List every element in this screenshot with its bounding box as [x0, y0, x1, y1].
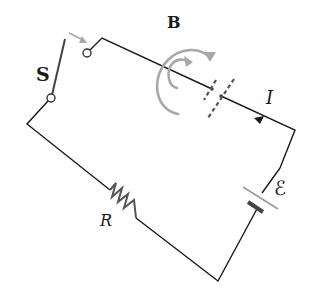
- field-arrowheads: [184, 52, 216, 67]
- switch-arrow-icon: [69, 33, 87, 43]
- switch-label: S: [36, 63, 50, 85]
- current-label: I: [266, 87, 273, 108]
- resistor-label: R: [100, 211, 112, 230]
- emf-label: ℰ: [274, 176, 286, 200]
- switch-terminal-open: [83, 49, 91, 57]
- circuit-diagram: S B I ℰ R: [0, 0, 318, 299]
- resistor: [110, 183, 136, 218]
- wire-ends: [210, 87, 223, 98]
- switch-terminal-pivot: [47, 94, 55, 102]
- wire: [27, 38, 295, 281]
- circuit-svg: [0, 0, 318, 299]
- current-arrow-icon: [254, 116, 264, 124]
- switch-lever: [52, 39, 65, 95]
- field-plane-dashes: [204, 79, 234, 118]
- magnetic-field-label: B: [167, 13, 181, 32]
- magnetic-field-loops-icon: [157, 50, 210, 114]
